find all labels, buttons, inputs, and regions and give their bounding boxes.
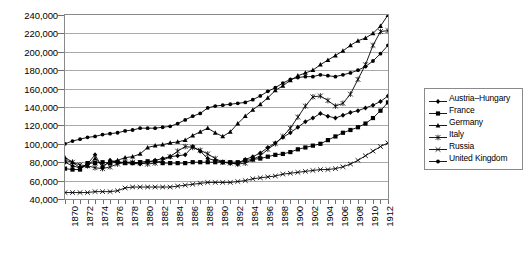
- x-axis-tick-label: 1900: [294, 206, 305, 227]
- data-point-marker-circle: [183, 118, 187, 122]
- data-point-marker-triangle: [348, 43, 353, 47]
- x-axis-tick-label: 1898: [279, 206, 290, 227]
- x-axis-tick-label: 1886: [189, 206, 200, 227]
- data-point-marker-triangle: [213, 130, 218, 135]
- data-point-marker-square: [206, 160, 210, 164]
- legend-item[interactable]: Italy: [427, 129, 519, 140]
- x-axis-tick-mark: [313, 200, 314, 204]
- data-point-marker-star: [213, 156, 218, 162]
- data-point-marker-circle: [371, 59, 375, 63]
- legend-item[interactable]: France: [427, 105, 519, 116]
- series-germany: [65, 15, 388, 170]
- data-point-marker-diamond: [175, 153, 180, 158]
- data-point-marker-triangle: [318, 62, 323, 67]
- legend-key-icon: [427, 93, 449, 104]
- legend-item[interactable]: Russia: [427, 141, 519, 152]
- data-point-marker-square: [378, 109, 382, 113]
- x-axis-tick-mark: [208, 200, 209, 204]
- data-point-marker-square: [176, 161, 180, 165]
- x-axis-tick-mark: [193, 200, 194, 204]
- x-axis-tick-label: 1880: [144, 206, 155, 227]
- data-point-marker-dash: [363, 154, 368, 158]
- series-line: [65, 45, 388, 143]
- x-axis-tick-label: 1892: [234, 206, 245, 227]
- data-point-marker-square: [183, 161, 187, 165]
- legend-item[interactable]: Germany: [427, 117, 519, 128]
- plot-area: [64, 14, 389, 200]
- data-point-marker-triangle: [326, 57, 331, 62]
- data-point-marker-diamond: [311, 116, 316, 121]
- data-point-marker-circle: [123, 129, 127, 133]
- data-point-marker-square: [326, 138, 330, 142]
- data-point-marker-circle: [296, 76, 300, 80]
- y-axis-tick-label: 40,000: [30, 194, 58, 205]
- y-axis-tick-label: 100,000: [24, 138, 58, 149]
- data-point-marker-star: [205, 151, 210, 157]
- x-axis-tick-mark: [245, 200, 246, 204]
- chart-legend: Austria–HungaryFranceGermanyItalyRussiaU…: [424, 88, 523, 170]
- x-axis-tick-label: 1906: [339, 206, 350, 227]
- y-axis-tick-label: 200,000: [24, 46, 58, 57]
- x-axis-tick-mark: [283, 200, 284, 204]
- data-point-marker-circle: [168, 124, 172, 128]
- legend-item-label: France: [449, 105, 475, 116]
- y-axis-tick-label: 220,000: [24, 28, 58, 39]
- x-axis-tick-mark: [80, 200, 81, 204]
- legend-key-icon: [427, 153, 449, 164]
- x-axis-tick-mark: [230, 200, 231, 204]
- x-axis-tick-mark: [103, 200, 104, 204]
- data-point-marker-circle: [146, 126, 150, 130]
- x-axis-tick-mark: [155, 200, 156, 204]
- x-axis-tick-label: 1874: [99, 206, 110, 227]
- x-axis-tick-label: 1888: [204, 206, 215, 227]
- x-axis-tick-mark: [215, 200, 216, 204]
- legend-item-label: Austria–Hungary: [449, 93, 510, 104]
- data-point-marker-diamond: [371, 103, 376, 108]
- x-axis-tick-mark: [118, 200, 119, 204]
- data-point-marker-diamond: [348, 110, 353, 115]
- x-axis-tick-mark: [178, 200, 179, 204]
- data-point-marker-circle: [78, 137, 82, 141]
- data-point-marker-star: [371, 43, 376, 49]
- data-point-marker-circle: [364, 65, 368, 69]
- legend-item-label: Russia: [449, 141, 474, 152]
- data-point-marker-circle: [71, 139, 75, 143]
- x-axis-tick-mark: [95, 200, 96, 204]
- data-point-marker-circle: [138, 126, 142, 130]
- data-point-marker-star: [348, 91, 353, 97]
- data-point-marker-diamond: [436, 99, 441, 104]
- y-axis-tick-label: 240,000: [24, 10, 58, 21]
- data-point-marker-star: [326, 98, 331, 104]
- series-line: [65, 31, 388, 169]
- data-point-marker-circle: [108, 132, 112, 136]
- data-point-marker-square: [333, 134, 337, 138]
- data-point-marker-triangle: [183, 138, 188, 143]
- legend-item[interactable]: Austria–Hungary: [427, 93, 519, 104]
- y-axis-tick-label: 180,000: [24, 65, 58, 76]
- data-point-marker-square: [281, 152, 285, 156]
- x-axis-tick-mark: [275, 200, 276, 204]
- data-point-marker-square: [311, 144, 315, 148]
- series-lines-layer: [65, 15, 388, 199]
- data-point-marker-square: [318, 142, 322, 146]
- data-point-marker-circle: [221, 103, 225, 107]
- data-point-marker-diamond: [378, 99, 383, 104]
- y-axis-tick-label: 120,000: [24, 120, 58, 131]
- data-point-marker-circle: [311, 75, 315, 79]
- x-axis-tick-mark: [133, 200, 134, 204]
- x-axis-tick-mark: [253, 200, 254, 204]
- data-point-marker-square: [363, 121, 367, 125]
- data-point-marker-diamond: [288, 130, 293, 135]
- x-axis-tick-label: 1908: [354, 206, 365, 227]
- chart-figure: 40,00060,00080,000100,000120,000140,0001…: [0, 0, 529, 260]
- legend-key-icon: [427, 129, 449, 140]
- data-point-marker-circle: [326, 74, 330, 78]
- data-point-marker-circle: [266, 89, 270, 93]
- series-italy: [65, 28, 388, 172]
- x-axis-tick-mark: [298, 200, 299, 204]
- data-point-marker-diamond: [333, 116, 338, 121]
- legend-item[interactable]: United Kingdom: [427, 153, 519, 164]
- data-point-marker-triangle: [310, 68, 315, 73]
- data-point-marker-circle: [153, 126, 157, 130]
- data-point-marker-square: [296, 147, 300, 151]
